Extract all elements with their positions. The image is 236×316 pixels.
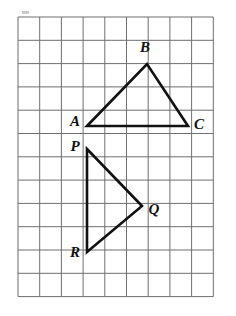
- label-a: A: [69, 113, 80, 129]
- label-q: Q: [149, 201, 160, 217]
- label-c: C: [194, 116, 205, 132]
- geometry-figure: ABCPQR: [0, 0, 236, 316]
- smudge-mark: [22, 11, 29, 14]
- figure-background: [0, 0, 236, 316]
- label-r: R: [69, 244, 80, 260]
- label-p: P: [70, 138, 80, 154]
- label-b: B: [139, 39, 150, 55]
